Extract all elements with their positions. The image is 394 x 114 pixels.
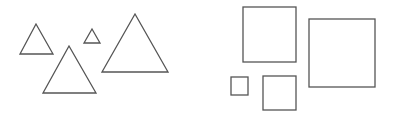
square-4 bbox=[263, 76, 296, 110]
square-1 bbox=[243, 7, 296, 62]
shapes-diagram bbox=[0, 0, 394, 114]
triangle-3 bbox=[43, 46, 96, 93]
triangle-4 bbox=[102, 14, 168, 72]
square-3 bbox=[231, 77, 248, 95]
triangle-1 bbox=[20, 24, 53, 54]
triangle-2 bbox=[84, 29, 100, 43]
square-2 bbox=[309, 19, 375, 87]
square-group bbox=[231, 7, 375, 110]
triangle-group bbox=[20, 14, 168, 93]
